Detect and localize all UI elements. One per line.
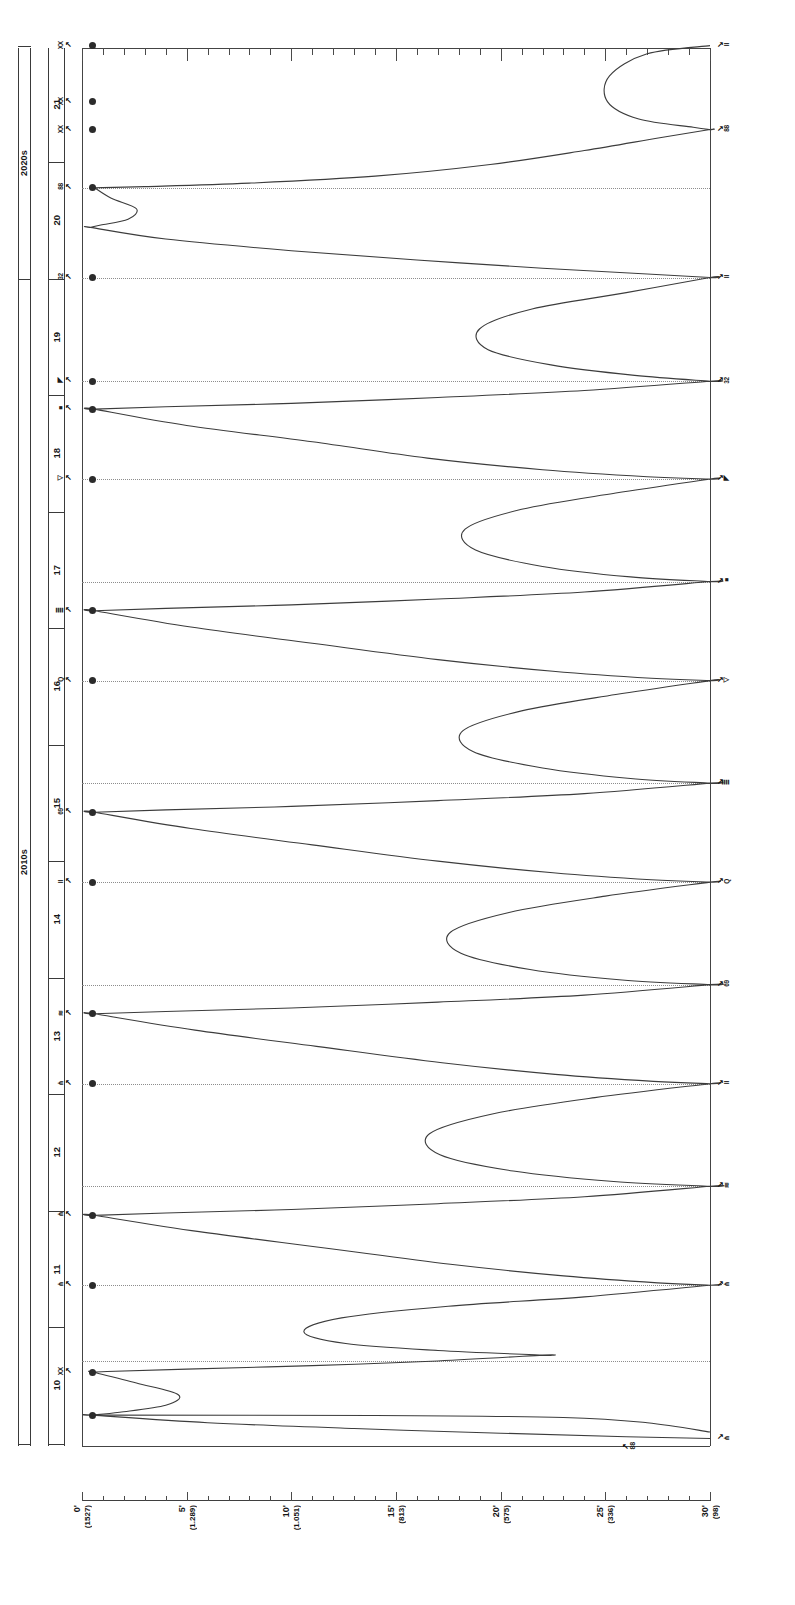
left-annotation-arrow-icon: ↖ xyxy=(65,183,72,191)
year-divider xyxy=(48,1444,64,1445)
left-annotation: 32↖ xyxy=(58,273,80,281)
note-label: 88 xyxy=(629,1442,636,1449)
gutter-rule-decade xyxy=(30,48,31,1446)
left-annotation-label: ◁ xyxy=(58,474,65,482)
tick-primary: 30' xyxy=(700,1505,710,1517)
tick-primary: 25' xyxy=(595,1505,605,1517)
left-annotation-arrow-icon: ↖ xyxy=(65,606,72,614)
left-annotation-arrow-icon: ↖ xyxy=(65,474,72,482)
left-annotation-label: ⋔ xyxy=(58,1211,65,1217)
left-annotation-label: ■ xyxy=(58,405,65,412)
left-annotation-arrow-icon: ↖ xyxy=(65,376,72,384)
value-major-tick xyxy=(396,1492,397,1501)
right-annotation-label: ■ xyxy=(724,577,731,584)
value-axis-tick-label: 20'(575) xyxy=(491,1505,511,1524)
right-annotation-label: ◥ xyxy=(724,474,731,482)
tick-secondary: (98) xyxy=(711,1505,720,1519)
left-annotation-arrow-icon: ↖ xyxy=(65,1079,72,1087)
left-annotation-arrow-icon: ↖ xyxy=(65,1009,72,1017)
data-point xyxy=(89,274,96,281)
left-annotation-label: XX xyxy=(58,1367,65,1375)
right-annotation: ↗88 xyxy=(717,125,731,133)
left-annotation: Q↖ xyxy=(58,676,80,684)
value-minor-tick xyxy=(668,1496,669,1501)
right-annotation: ↗⋔ xyxy=(717,1433,731,1441)
left-annotation: ⋔↖ xyxy=(58,1280,80,1288)
right-annotation: ↗69 xyxy=(717,980,731,988)
data-point xyxy=(89,476,96,483)
right-annotation: ↗II xyxy=(717,1079,731,1087)
value-axis-tick-label: 15'(813) xyxy=(386,1505,406,1524)
value-minor-tick xyxy=(145,1496,146,1501)
left-annotation-label: ⋔ xyxy=(58,1281,65,1287)
right-annotation-label: 88 xyxy=(724,125,731,132)
value-minor-tick xyxy=(249,1496,250,1501)
left-annotation-label: 88 xyxy=(58,183,65,190)
value-minor-tick xyxy=(480,1496,481,1501)
left-annotation-label: ≋ xyxy=(58,1010,65,1016)
year-label-15: 15 xyxy=(48,745,64,862)
value-minor-tick xyxy=(103,1496,104,1501)
plot-area: XX↖XX↖XX↖88↖32↖◥↖■↖◁↖≣↖Q↖69↖II↖≋↖⋔↖⋔↖⋔↖X… xyxy=(82,48,710,1446)
tick-primary: 20' xyxy=(491,1505,501,1517)
value-axis-tick-label: 30'(98) xyxy=(700,1505,720,1519)
figure-canvas: 2020s2010s 212019181716151413121110 XX↖X… xyxy=(0,0,795,1605)
left-annotation: 69↖ xyxy=(58,807,80,815)
left-annotation: ⋔↖ xyxy=(58,1079,80,1087)
data-point xyxy=(89,406,96,413)
right-annotation-label: ⋔ xyxy=(724,1435,731,1441)
tick-primary: 5' xyxy=(177,1505,187,1512)
value-minor-tick xyxy=(375,1496,376,1501)
data-point xyxy=(89,378,96,385)
value-minor-tick xyxy=(522,1496,523,1501)
interior-note: ↖ 88 xyxy=(622,1442,636,1451)
tick-primary: 0' xyxy=(72,1505,82,1512)
value-major-tick xyxy=(187,1492,188,1501)
data-point xyxy=(89,1212,96,1219)
left-annotation-label: II xyxy=(58,880,65,883)
value-axis-line: 0'(1527)5'(1.289)10'(1.051)15'(813)20'(5… xyxy=(82,1500,710,1501)
left-annotation: ≋↖ xyxy=(58,1009,80,1017)
right-annotation: ↗⋔ xyxy=(717,1280,731,1288)
right-annotation: ↗■ xyxy=(717,577,731,585)
left-annotation: ⋔↖ xyxy=(58,1210,80,1218)
right-annotation-label: ≋ xyxy=(724,1182,731,1188)
left-annotation-arrow-icon: ↖ xyxy=(65,807,72,815)
data-point xyxy=(89,677,96,684)
right-annotation-label: II xyxy=(724,275,731,278)
left-annotation: II↖ xyxy=(58,877,80,885)
right-annotation-label: II xyxy=(724,1081,731,1084)
year-gutter: 2020s2010s 212019181716151413121110 xyxy=(18,48,76,1446)
left-annotation: XX↖ xyxy=(58,1367,80,1375)
decade-label-2010s: 2010s xyxy=(17,279,30,1444)
left-annotation: XX↖ xyxy=(58,125,80,133)
plot-right-axis xyxy=(710,48,711,1446)
value-minor-tick xyxy=(166,1496,167,1501)
value-minor-tick xyxy=(417,1496,418,1501)
value-major-tick xyxy=(82,1492,83,1501)
left-annotation-arrow-icon: ↖ xyxy=(65,1210,72,1218)
right-annotation-label: II xyxy=(724,43,731,46)
left-annotation-arrow-icon: ↖ xyxy=(65,404,72,412)
tick-primary: 10' xyxy=(281,1505,291,1517)
year-label-12: 12 xyxy=(48,1094,64,1211)
value-minor-tick xyxy=(333,1496,334,1501)
data-point xyxy=(89,126,96,133)
left-annotation-label: ≣ xyxy=(58,607,65,613)
data-point xyxy=(89,809,96,816)
value-axis-tick-label: 10'(1.051) xyxy=(281,1505,301,1530)
year-label-11: 11 xyxy=(48,1211,64,1328)
value-major-tick xyxy=(605,1492,606,1501)
value-axis-tick-label: 5'(1.289) xyxy=(177,1505,197,1530)
left-annotation-arrow-icon: ↖ xyxy=(65,273,72,281)
value-minor-tick xyxy=(584,1496,585,1501)
value-minor-tick xyxy=(208,1496,209,1501)
right-annotation: ↗◁ xyxy=(717,676,731,684)
value-minor-tick xyxy=(543,1496,544,1501)
year-label-13: 13 xyxy=(48,978,64,1095)
value-minor-tick xyxy=(229,1496,230,1501)
value-major-tick xyxy=(501,1492,502,1501)
value-minor-tick xyxy=(689,1496,690,1501)
data-point xyxy=(89,879,96,886)
left-annotation-arrow-icon: ↖ xyxy=(65,97,72,105)
